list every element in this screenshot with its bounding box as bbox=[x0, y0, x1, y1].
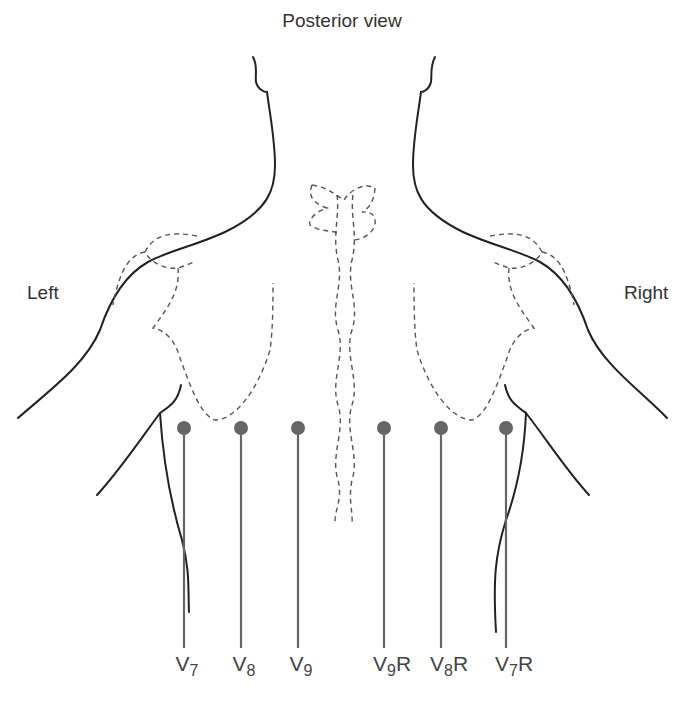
electrode-dot bbox=[177, 421, 191, 435]
electrode-v7 bbox=[177, 421, 191, 648]
lead-label-v8: V8 bbox=[233, 652, 256, 680]
lead-label-v7: V7 bbox=[176, 652, 199, 680]
posterior-torso-diagram bbox=[0, 0, 684, 721]
diagram-title: Posterior view bbox=[0, 10, 684, 32]
lead-label-v7r: V7R bbox=[495, 652, 533, 680]
electrode-v8 bbox=[234, 421, 248, 648]
lead-label-v9r: V9R bbox=[373, 652, 411, 680]
electrode-dot bbox=[377, 421, 391, 435]
electrode-v9 bbox=[291, 421, 305, 648]
electrode-dot bbox=[291, 421, 305, 435]
electrode-dot bbox=[499, 421, 513, 435]
scapula-spine-dashed bbox=[113, 185, 574, 525]
body-outline bbox=[18, 57, 667, 632]
electrode-v8r bbox=[434, 421, 448, 648]
right-side-label: Right bbox=[624, 282, 668, 304]
electrode-layer bbox=[177, 421, 513, 648]
lead-label-v9: V9 bbox=[290, 652, 313, 680]
electrode-v9r bbox=[377, 421, 391, 648]
electrode-dot bbox=[434, 421, 448, 435]
left-side-label: Left bbox=[27, 282, 59, 304]
lead-label-v8r: V8R bbox=[430, 652, 468, 680]
electrode-dot bbox=[234, 421, 248, 435]
